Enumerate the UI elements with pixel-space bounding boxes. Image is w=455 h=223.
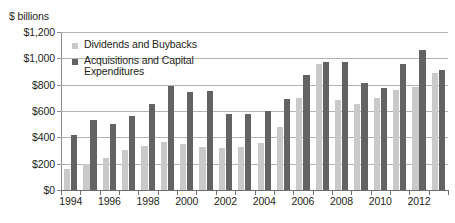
x-axis-tick-label: 2002 (214, 196, 237, 207)
legend-swatch-icon-series-0 (72, 43, 78, 49)
x-axis-tick-label: 1994 (59, 196, 82, 207)
bar-2003-series-1 (245, 114, 251, 190)
y-axis-tick-label: $0 (0, 185, 55, 195)
bar-2001-series-1 (207, 91, 213, 190)
x-axis-tick-label: 2012 (407, 196, 430, 207)
bar-2007-series-1 (323, 62, 329, 190)
legend-label-series-1: Acquisitions and Capital Expenditures (84, 55, 204, 78)
chart-legend: Dividends and Buybacks Acquisitions and … (72, 39, 204, 82)
x-axis-tick (448, 191, 449, 195)
legend-item-dividends-and-buybacks: Dividends and Buybacks (72, 39, 204, 51)
bar-2008-series-0 (335, 100, 341, 190)
y-axis-tick-label: $800 (0, 80, 55, 90)
bar-2011-series-0 (393, 90, 399, 190)
bar-2008-series-1 (342, 62, 348, 190)
bar-2003-series-0 (238, 147, 244, 190)
bar-2012-series-1 (419, 50, 425, 190)
chart-container: $ billions $1,200$1,000$800$600$400$200$… (0, 0, 455, 223)
bar-1999-series-1 (168, 86, 174, 190)
y-axis-tick-label: $600 (0, 106, 55, 116)
bar-2006-series-0 (296, 98, 302, 190)
y-axis-tick-label: $1,000 (0, 53, 55, 63)
x-axis-tick-label: 2004 (253, 196, 276, 207)
x-axis-tick-label: 2010 (369, 196, 392, 207)
bar-2004-series-0 (258, 143, 264, 190)
bar-1998-series-1 (149, 104, 155, 190)
bar-1995-series-1 (90, 120, 96, 190)
x-axis-tick-label: 2006 (291, 196, 314, 207)
bar-2013-series-1 (439, 70, 445, 190)
bar-2009-series-1 (361, 83, 367, 190)
bar-2010-series-0 (374, 98, 380, 190)
legend-item-acquisitions-and-capital-expenditures: Acquisitions and Capital Expenditures (72, 55, 204, 78)
bar-2013-series-0 (432, 73, 438, 190)
bar-2002-series-0 (219, 148, 225, 190)
bar-2002-series-1 (226, 114, 232, 190)
bar-2000-series-0 (180, 144, 186, 190)
y-axis-tick-label: $1,200 (0, 27, 55, 37)
bar-2007-series-0 (316, 64, 322, 190)
bar-1994-series-1 (71, 135, 77, 190)
bar-2006-series-1 (303, 75, 309, 190)
bar-2011-series-1 (400, 64, 406, 190)
legend-label-series-0: Dividends and Buybacks (84, 39, 204, 51)
y-axis-tick-label: $400 (0, 132, 55, 142)
bar-1995-series-0 (83, 164, 89, 190)
bar-1996-series-0 (103, 158, 109, 190)
bar-2001-series-0 (199, 147, 205, 190)
bar-2000-series-1 (187, 92, 193, 190)
x-axis-tick-label: 1998 (137, 196, 160, 207)
bar-1999-series-0 (161, 142, 167, 190)
bar-1994-series-0 (64, 169, 70, 190)
bar-2009-series-0 (354, 104, 360, 190)
y-axis-title: $ billions (9, 11, 49, 22)
y-axis-tick-label: $200 (0, 159, 55, 169)
bar-2010-series-1 (381, 88, 387, 190)
bar-2004-series-1 (265, 111, 271, 190)
bar-1996-series-1 (110, 124, 116, 190)
bar-2005-series-0 (277, 127, 283, 190)
x-axis-tick-label: 1996 (98, 196, 121, 207)
bar-1998-series-0 (141, 146, 147, 190)
x-axis-tick-label: 2000 (175, 196, 198, 207)
legend-swatch-icon-series-1 (72, 59, 78, 65)
bar-2005-series-1 (284, 99, 290, 190)
bar-1997-series-1 (129, 116, 135, 190)
x-axis-tick-label: 2008 (330, 196, 353, 207)
bar-1997-series-0 (122, 150, 128, 190)
bar-2012-series-0 (412, 87, 418, 190)
